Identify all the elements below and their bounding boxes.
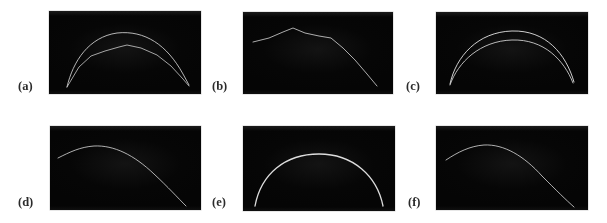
panel-label-b: (b) bbox=[212, 80, 227, 93]
figure-panel-grid: (a) (b) (c) bbox=[0, 0, 607, 223]
panel-image-a bbox=[49, 11, 201, 94]
panel-a-background bbox=[49, 11, 201, 94]
panel-b-background bbox=[243, 12, 393, 94]
panel-d-background bbox=[50, 126, 201, 210]
panel-c-traces bbox=[436, 12, 588, 94]
panel-image-c bbox=[436, 12, 588, 94]
panel-label-d: (d) bbox=[18, 196, 33, 209]
panel-a-traces bbox=[49, 11, 201, 94]
panel-image-e bbox=[243, 126, 395, 211]
panel-label-a: (a) bbox=[18, 80, 33, 93]
panel-d-traces bbox=[50, 126, 201, 210]
panel-e-background bbox=[243, 126, 395, 211]
panel-e-traces bbox=[243, 126, 395, 211]
panel-b-traces bbox=[243, 12, 393, 94]
panel-image-d bbox=[50, 126, 201, 210]
panel-c-background bbox=[436, 12, 588, 94]
panel-image-b bbox=[243, 12, 393, 94]
panel-label-e: (e) bbox=[212, 196, 226, 209]
panel-f-traces bbox=[436, 126, 588, 210]
panel-f-background bbox=[436, 126, 588, 210]
panel-label-f: (f) bbox=[408, 196, 421, 209]
panel-label-c: (c) bbox=[406, 80, 420, 93]
panel-image-f bbox=[436, 126, 588, 210]
